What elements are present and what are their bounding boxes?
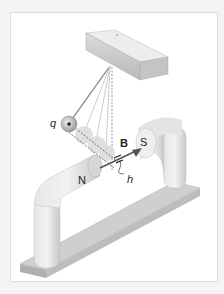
- charged-ball: [61, 116, 77, 132]
- ceiling-block: [86, 30, 168, 80]
- height-label: h: [127, 173, 133, 185]
- north-pole-label: N: [78, 174, 86, 186]
- south-pole-label: S: [140, 136, 147, 148]
- charge-label: q: [50, 117, 56, 129]
- south-pole-magnet: [136, 117, 186, 188]
- field-label: B: [120, 137, 128, 149]
- pendulum-magnet-diagram: [0, 0, 224, 294]
